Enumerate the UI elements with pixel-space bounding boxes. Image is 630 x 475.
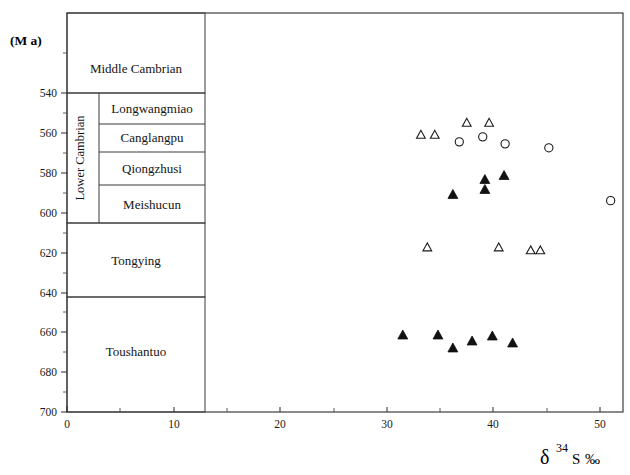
y-tick-label-580: 580 <box>40 167 58 179</box>
y-tick-label-600: 600 <box>40 207 58 219</box>
y-tick-label-660: 660 <box>40 326 58 338</box>
x-axis: 0 10 20 30 40 50 δ 34 S ‰ <box>64 406 606 468</box>
strat-box-middle-cambrian <box>67 13 205 93</box>
y-tick-label-540: 540 <box>40 87 58 99</box>
data-point-filled-triangle <box>480 185 490 194</box>
strat-label-qiongzhusi: Qiongzhusi <box>122 161 182 176</box>
y-axis-ticks <box>61 53 67 412</box>
strat-label-toushantuo: Toushantuo <box>106 344 166 359</box>
x-axis-title-element: S <box>572 451 580 467</box>
data-point-layer <box>398 118 615 352</box>
data-point-open-triangle <box>536 246 545 254</box>
y-tick-label-640: 640 <box>40 287 58 299</box>
data-point-filled-triangle <box>467 336 477 345</box>
data-point-open-triangle <box>526 246 535 254</box>
data-point-filled-triangle <box>499 171 509 180</box>
data-point-open-triangle <box>423 243 432 251</box>
data-point-filled-triangle <box>448 343 458 352</box>
x-axis-title-mass-number: 34 <box>556 441 568 455</box>
y-axis-unit-label: (M a) <box>10 33 42 48</box>
data-point-open-circle <box>607 197 615 205</box>
data-point-filled-triangle <box>398 330 408 339</box>
strat-label-canglangpu: Canglangpu <box>121 130 184 145</box>
strat-label-middle-cambrian: Middle Cambrian <box>90 61 183 76</box>
data-point-open-circle <box>501 140 509 148</box>
x-axis-title-permil: ‰ <box>585 451 600 467</box>
chart-canvas: Middle Cambrian Longwangmiao Canglangpu … <box>0 0 630 475</box>
strat-label-lower-cambrian: Lower Cambrian <box>73 115 87 201</box>
stratigraphic-isotope-figure: Middle Cambrian Longwangmiao Canglangpu … <box>0 0 630 475</box>
strat-label-longwangmiao: Longwangmiao <box>111 101 193 116</box>
data-point-filled-triangle <box>480 175 490 184</box>
data-point-open-circle <box>479 133 487 141</box>
x-axis-title: δ 34 S ‰ <box>540 441 600 468</box>
data-point-filled-triangle <box>508 338 518 347</box>
data-point-open-triangle <box>417 130 426 138</box>
x-tick-label-10: 10 <box>168 418 180 430</box>
data-point-filled-triangle <box>487 331 497 340</box>
data-point-open-triangle <box>494 243 503 251</box>
x-axis-tick-labels: 0 10 20 30 40 50 <box>64 418 606 430</box>
y-tick-label-700: 700 <box>40 406 58 418</box>
x-tick-label-40: 40 <box>487 418 499 430</box>
x-axis-title-delta: δ <box>540 446 549 468</box>
y-axis-tick-labels: 540 560 580 600 620 640 660 680 700 <box>40 87 58 418</box>
data-point-open-circle <box>455 138 463 146</box>
data-point-filled-triangle <box>433 330 443 339</box>
data-point-filled-triangle <box>448 189 458 198</box>
data-point-open-triangle <box>430 130 439 138</box>
y-tick-label-620: 620 <box>40 247 58 259</box>
x-tick-label-50: 50 <box>594 418 606 430</box>
x-tick-label-20: 20 <box>274 418 286 430</box>
data-point-open-triangle <box>485 118 494 126</box>
y-axis: 540 560 580 600 620 640 660 680 700 (M a… <box>10 33 67 418</box>
x-axis-ticks <box>67 406 600 412</box>
stratigraphic-labels: Middle Cambrian Longwangmiao Canglangpu … <box>73 61 193 359</box>
strat-label-tongying: Tongying <box>111 253 161 268</box>
data-point-open-triangle <box>462 118 471 126</box>
y-tick-label-680: 680 <box>40 366 58 378</box>
y-tick-label-560: 560 <box>40 127 58 139</box>
x-tick-label-30: 30 <box>381 418 393 430</box>
data-point-open-circle <box>545 144 553 152</box>
strat-label-meishucun: Meishucun <box>123 197 181 212</box>
x-tick-label-0: 0 <box>64 418 70 430</box>
